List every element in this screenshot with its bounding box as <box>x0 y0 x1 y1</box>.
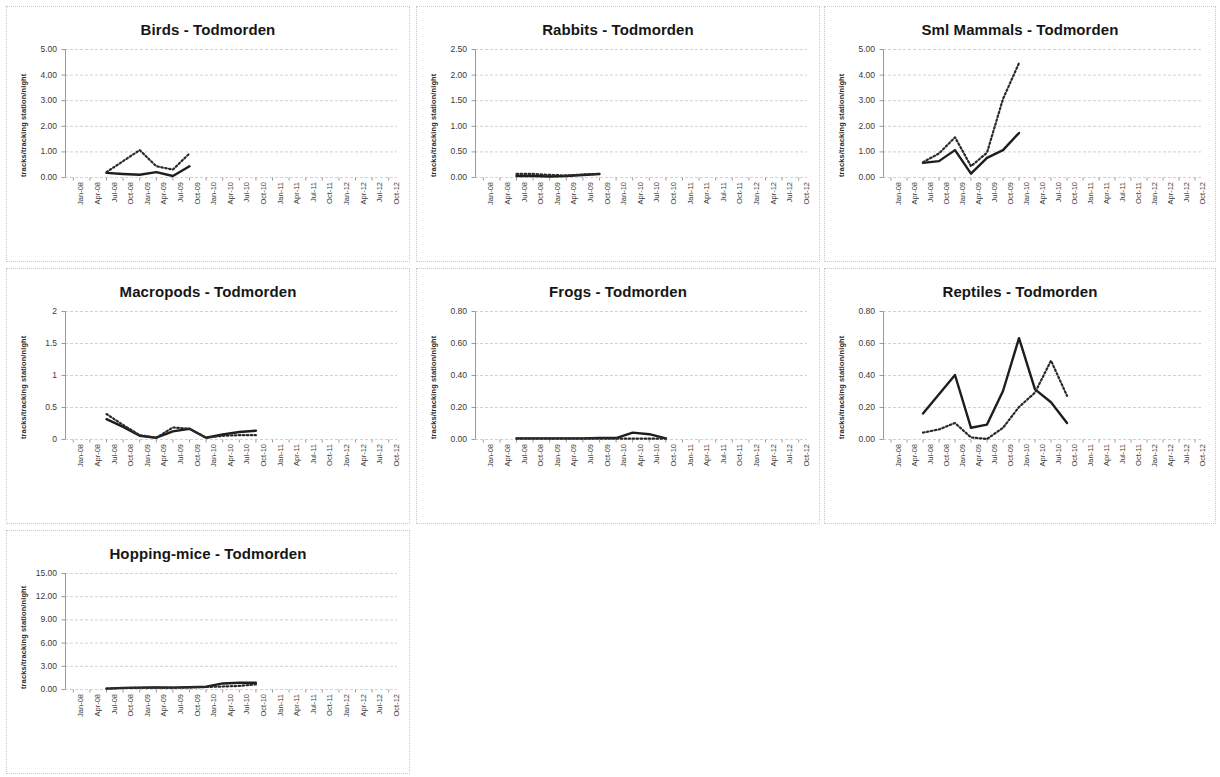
chart-panel-birds: Birds - Todmordentracks/tracking station… <box>6 6 410 262</box>
x-tick-label: Oct-12 <box>392 182 401 226</box>
x-tick-label: Oct-08 <box>536 182 545 226</box>
x-tick-label: Jan-10 <box>209 694 218 738</box>
x-tick-label: Jul-10 <box>242 444 251 488</box>
y-axis-label-frogs: tracks/tracking station/night <box>429 336 438 439</box>
x-tick-label: Jul-10 <box>652 182 661 226</box>
chart-panel-reptiles: Reptiles - Todmordentracks/tracking stat… <box>824 268 1216 524</box>
x-tick-label: Oct-08 <box>126 182 135 226</box>
plot-area-reptiles <box>883 311 1203 439</box>
x-tick-label: Oct-10 <box>259 444 268 488</box>
x-tick-label: Oct-12 <box>802 182 811 226</box>
x-tick-label: Apr-10 <box>226 444 235 488</box>
x-tick-label: Apr-10 <box>1038 444 1047 488</box>
x-tick-label: Oct-09 <box>603 444 612 488</box>
x-tick-label: Oct-08 <box>942 182 951 226</box>
x-tick-label: Apr-11 <box>702 182 711 226</box>
x-tick-label: Jul-11 <box>1118 444 1127 488</box>
plot-area-rabbits <box>475 49 807 177</box>
y-tick-label: 1.00 <box>7 146 57 156</box>
plot-area-sml-mammals <box>883 49 1203 177</box>
x-tick-label: Oct-10 <box>1070 182 1079 226</box>
x-tick-label: Jan-08 <box>76 694 85 738</box>
x-tick-label: Jul-09 <box>586 182 595 226</box>
x-tick-label: Jul-10 <box>652 444 661 488</box>
y-tick-label: 0.20 <box>417 402 467 412</box>
x-tick-label: Jul-10 <box>1054 182 1063 226</box>
y-tick-label: 0.40 <box>825 370 875 380</box>
x-tick-label: Apr-10 <box>226 694 235 738</box>
x-tick-label: Jan-09 <box>143 444 152 488</box>
x-tick-label: Jan-10 <box>209 444 218 488</box>
x-tick-label: Oct-11 <box>325 694 334 738</box>
y-tick-label: 4.00 <box>7 70 57 80</box>
x-tick-label: Oct-08 <box>942 444 951 488</box>
chart-title-birds: Birds - Todmorden <box>7 21 409 38</box>
x-tick-label: Apr-08 <box>503 182 512 226</box>
y-tick-label: 5.00 <box>825 44 875 54</box>
x-tick-label: Jul-08 <box>110 182 119 226</box>
x-tick-label: Jul-12 <box>785 182 794 226</box>
y-tick-label: 0.80 <box>417 306 467 316</box>
x-tick-label: Jan-09 <box>958 444 967 488</box>
x-tick-label: Jan-08 <box>486 444 495 488</box>
x-tick-label: Apr-11 <box>1102 444 1111 488</box>
chart-title-rabbits: Rabbits - Todmorden <box>417 21 819 38</box>
x-tick-label: Jan-08 <box>76 182 85 226</box>
x-tick-label: Apr-08 <box>93 182 102 226</box>
chart-panel-frogs: Frogs - Todmordentracks/tracking station… <box>416 268 820 524</box>
x-tick-label: Jan-10 <box>209 182 218 226</box>
y-tick-label: 2.00 <box>825 121 875 131</box>
y-tick-label: 6.00 <box>7 638 57 648</box>
chart-grid: Birds - Todmordentracks/tracking station… <box>0 0 1220 777</box>
x-tick-label: Oct-09 <box>1006 444 1015 488</box>
x-tick-label: Jul-11 <box>309 182 318 226</box>
plot-area-hopping-mice <box>65 573 397 689</box>
x-tick-label: Apr-11 <box>292 182 301 226</box>
x-tick-label: Jan-09 <box>958 182 967 226</box>
x-tick-label: Apr-10 <box>1038 182 1047 226</box>
y-tick-label: 0.00 <box>7 172 57 182</box>
x-tick-label: Apr-12 <box>1166 444 1175 488</box>
x-tick-label: Oct-12 <box>1198 182 1207 226</box>
x-tick-label: Apr-08 <box>910 444 919 488</box>
x-tick-label: Jan-12 <box>342 694 351 738</box>
x-tick-label: Apr-11 <box>292 444 301 488</box>
x-tick-label: Oct-11 <box>325 444 334 488</box>
y-tick-label: 2.00 <box>7 121 57 131</box>
x-tick-label: Jan-11 <box>686 182 695 226</box>
y-tick-label: 15.00 <box>7 568 57 578</box>
x-tick-label: Oct-12 <box>1198 444 1207 488</box>
x-tick-label: Apr-11 <box>702 444 711 488</box>
y-tick-label: 0.60 <box>825 338 875 348</box>
y-tick-label: 0.00 <box>417 434 467 444</box>
y-tick-label: 2 <box>7 306 57 316</box>
x-tick-label: Apr-10 <box>226 182 235 226</box>
x-tick-label: Apr-11 <box>1102 182 1111 226</box>
x-tick-label: Oct-09 <box>193 182 202 226</box>
x-tick-label: Apr-12 <box>359 444 368 488</box>
x-tick-label: Jan-12 <box>1150 182 1159 226</box>
x-tick-label: Oct-08 <box>536 444 545 488</box>
x-tick-label: Apr-09 <box>159 444 168 488</box>
y-tick-label: 3.00 <box>7 95 57 105</box>
x-tick-label: Jul-08 <box>926 444 935 488</box>
x-tick-label: Jul-10 <box>242 182 251 226</box>
x-tick-label: Jan-10 <box>619 182 628 226</box>
y-tick-label: 1.5 <box>7 338 57 348</box>
y-tick-label: 0.00 <box>7 684 57 694</box>
plot-area-birds <box>65 49 397 177</box>
x-tick-label: Jul-11 <box>309 694 318 738</box>
y-tick-label: 1 <box>7 370 57 380</box>
x-tick-label: Apr-12 <box>1166 182 1175 226</box>
y-tick-label: 1.50 <box>417 95 467 105</box>
chart-title-macropods: Macropods - Todmorden <box>7 283 409 300</box>
chart-panel-sml-mammals: Sml Mammals - Todmordentracks/tracking s… <box>824 6 1216 262</box>
x-tick-label: Jan-10 <box>619 444 628 488</box>
x-tick-label: Jul-08 <box>110 694 119 738</box>
y-tick-label: 1.00 <box>417 121 467 131</box>
x-tick-label: Oct-11 <box>735 182 744 226</box>
x-tick-label: Jul-09 <box>176 694 185 738</box>
x-tick-label: Jan-10 <box>1022 182 1031 226</box>
series-solid-reptiles <box>923 338 1067 428</box>
x-tick-label: Jul-09 <box>990 182 999 226</box>
